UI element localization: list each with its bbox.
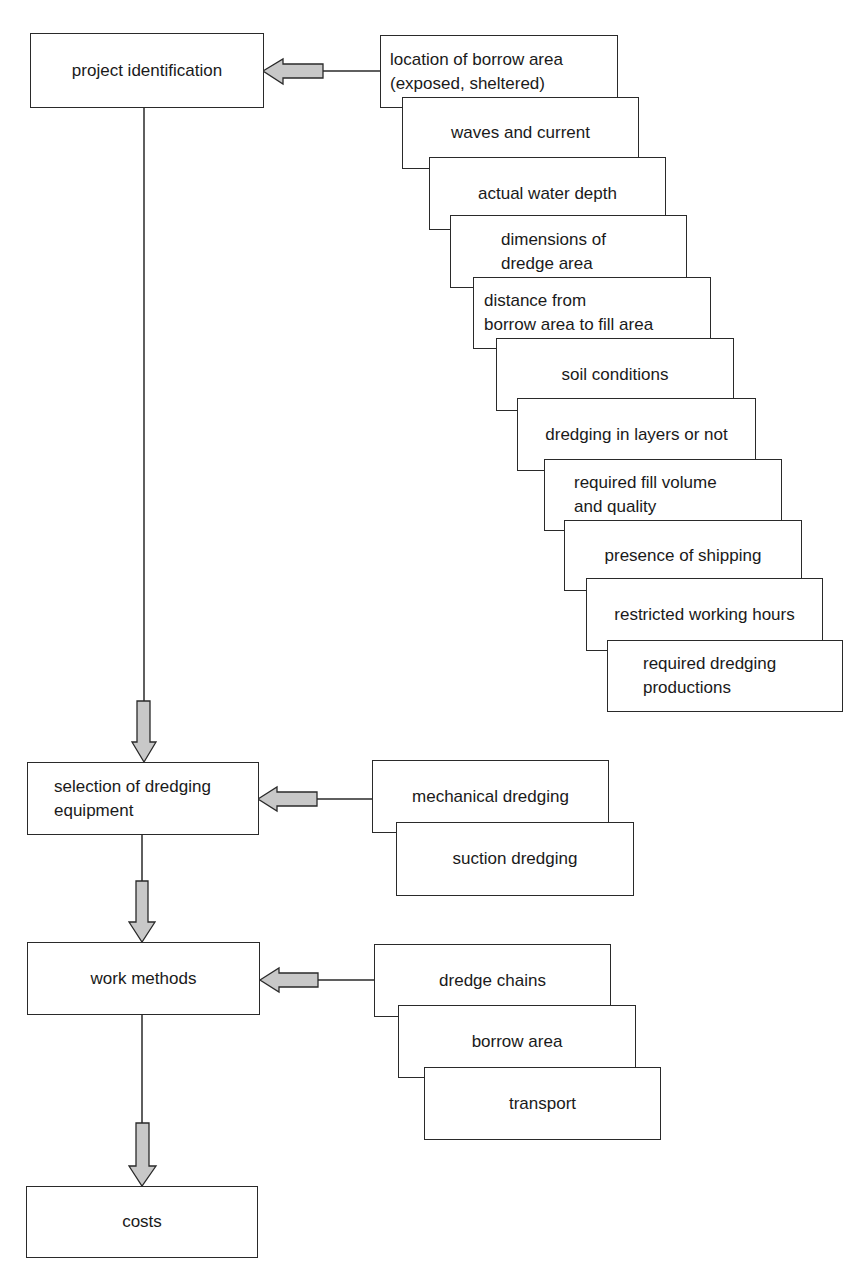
project-identification-box: project identification — [30, 33, 264, 108]
arrow-down-icon — [129, 881, 155, 942]
factor-label: waves and current — [451, 121, 590, 145]
box-label: project identification — [72, 59, 222, 83]
work-factor-box: transport — [424, 1067, 661, 1140]
work-factor-label: transport — [509, 1092, 576, 1116]
factor-label: required dredging productions — [643, 652, 776, 700]
box-label: work methods — [91, 967, 197, 991]
work-factor-label: borrow area — [472, 1030, 563, 1054]
box-label: costs — [122, 1210, 162, 1234]
factor-label: location of borrow area (exposed, shelte… — [390, 48, 563, 96]
factor-label: distance from borrow area to fill area — [484, 289, 653, 337]
factor-box: required dredging productions — [607, 640, 843, 712]
selection-of-dredging-equipment-box: selection of dredging equipment — [27, 762, 259, 835]
factor-label: soil conditions — [562, 363, 669, 387]
factor-label: presence of shipping — [605, 544, 762, 568]
arrow-down-icon — [132, 701, 156, 762]
factor-label: required fill volume and quality — [574, 471, 717, 519]
arrow-left-icon — [258, 787, 317, 811]
factor-label: dredging in layers or not — [545, 423, 727, 447]
option-label: suction dredging — [453, 847, 578, 871]
costs-box: costs — [26, 1186, 258, 1258]
option-label: mechanical dredging — [412, 785, 569, 809]
work-factor-label: dredge chains — [439, 969, 546, 993]
box-label: selection of dredging equipment — [54, 775, 211, 823]
option-box: suction dredging — [396, 822, 634, 896]
factor-label: actual water depth — [478, 182, 617, 206]
arrow-left-icon — [260, 968, 318, 992]
arrow-left-icon — [263, 59, 323, 84]
work-methods-box: work methods — [27, 942, 260, 1015]
arrow-down-icon — [129, 1123, 156, 1186]
factor-label: restricted working hours — [614, 603, 794, 627]
factor-label: dimensions of dredge area — [501, 228, 606, 276]
